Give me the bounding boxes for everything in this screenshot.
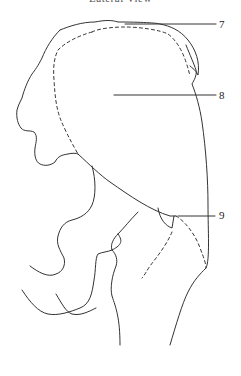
bone-diagram [0, 0, 241, 376]
inner-dashed-right [176, 216, 206, 268]
inner-dashed-contour [92, 27, 190, 76]
callout-8-label: 8 [219, 90, 225, 101]
outer-contour-upper [60, 21, 199, 76]
lower-left-loop [30, 166, 95, 275]
inner-dashed-lower [142, 232, 172, 278]
center-shaft-line [111, 212, 138, 345]
outer-contour-right [170, 45, 209, 345]
lower-left-curve [22, 250, 112, 315]
tubercle [158, 208, 174, 228]
callout-9-label: 9 [219, 210, 225, 221]
outer-contour-left [17, 30, 78, 165]
callout-7-label: 7 [219, 19, 225, 30]
crest-edge [78, 154, 176, 216]
inner-dashed-left [54, 32, 92, 154]
